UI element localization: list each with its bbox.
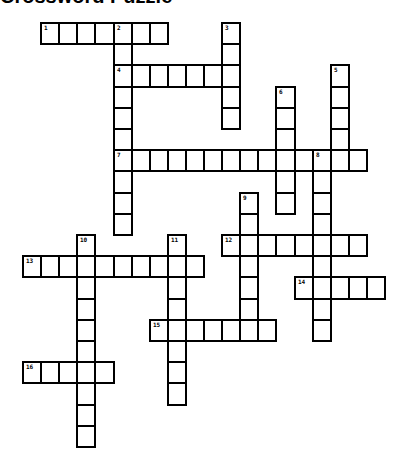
crossword-cell[interactable] <box>185 319 205 342</box>
crossword-cell[interactable] <box>312 319 332 342</box>
crossword-cell[interactable]: 12 <box>221 234 241 257</box>
crossword-cell[interactable] <box>330 234 350 257</box>
crossword-cell[interactable] <box>275 149 296 172</box>
crossword-cell[interactable] <box>131 255 151 278</box>
crossword-cell[interactable] <box>275 170 296 194</box>
crossword-cell[interactable] <box>76 425 96 448</box>
crossword-cell[interactable] <box>294 149 314 172</box>
crossword-cell[interactable] <box>221 86 241 109</box>
crossword-cell[interactable] <box>203 149 223 172</box>
crossword-cell[interactable] <box>58 255 78 278</box>
crossword-cell[interactable] <box>76 276 96 300</box>
crossword-cell[interactable] <box>94 361 115 384</box>
crossword-cell[interactable] <box>76 22 96 45</box>
crossword-cell[interactable] <box>149 64 169 88</box>
crossword-cell[interactable] <box>167 255 187 278</box>
crossword-cell[interactable]: 13 <box>22 255 42 278</box>
crossword-cell[interactable] <box>366 276 386 300</box>
crossword-cell[interactable] <box>131 64 151 88</box>
crossword-cell[interactable] <box>257 234 277 257</box>
crossword-cell[interactable] <box>113 128 133 151</box>
crossword-cell[interactable] <box>113 192 133 215</box>
crossword-cell[interactable] <box>167 361 187 384</box>
crossword-cell[interactable]: 15 <box>149 319 169 342</box>
crossword-cell[interactable] <box>167 276 187 300</box>
crossword-cell[interactable] <box>131 22 151 45</box>
crossword-cell[interactable] <box>113 107 133 130</box>
crossword-cell[interactable]: 2 <box>113 22 133 45</box>
crossword-cell[interactable] <box>76 255 96 278</box>
crossword-cell[interactable] <box>257 149 277 172</box>
crossword-cell[interactable] <box>348 234 368 257</box>
crossword-cell[interactable] <box>40 255 60 278</box>
crossword-cell[interactable]: 8 <box>312 149 332 172</box>
crossword-cell[interactable] <box>294 234 314 257</box>
crossword-cell[interactable]: 7 <box>113 149 133 172</box>
crossword-cell[interactable]: 11 <box>167 234 187 257</box>
crossword-cell[interactable] <box>185 64 205 88</box>
crossword-cell[interactable] <box>239 234 259 257</box>
crossword-cell[interactable] <box>239 213 259 236</box>
crossword-cell[interactable] <box>203 319 223 342</box>
crossword-cell[interactable] <box>113 170 133 194</box>
crossword-cell[interactable] <box>312 170 332 194</box>
crossword-cell[interactable] <box>312 234 332 257</box>
crossword-cell[interactable] <box>257 319 277 342</box>
crossword-cell[interactable] <box>312 192 332 215</box>
crossword-cell[interactable] <box>167 319 187 342</box>
crossword-cell[interactable] <box>221 319 241 342</box>
crossword-cell[interactable] <box>113 255 133 278</box>
crossword-cell[interactable] <box>167 298 187 321</box>
crossword-cell[interactable] <box>185 149 205 172</box>
crossword-cell[interactable] <box>239 255 259 278</box>
crossword-cell[interactable] <box>221 107 241 130</box>
crossword-cell[interactable] <box>275 192 296 215</box>
crossword-cell[interactable]: 9 <box>239 192 259 215</box>
crossword-cell[interactable] <box>40 361 60 384</box>
crossword-cell[interactable] <box>275 128 296 151</box>
crossword-cell[interactable] <box>167 64 187 88</box>
crossword-cell[interactable] <box>221 149 241 172</box>
crossword-cell[interactable] <box>149 149 169 172</box>
crossword-cell[interactable] <box>312 276 332 300</box>
crossword-cell[interactable] <box>167 340 187 363</box>
crossword-cell[interactable] <box>131 149 151 172</box>
crossword-cell[interactable] <box>275 234 296 257</box>
crossword-cell[interactable]: 5 <box>330 64 350 88</box>
crossword-cell[interactable] <box>76 298 96 321</box>
crossword-cell[interactable] <box>330 128 350 151</box>
crossword-cell[interactable]: 6 <box>275 86 296 109</box>
crossword-cell[interactable] <box>149 22 169 45</box>
crossword-cell[interactable] <box>221 43 241 66</box>
crossword-cell[interactable] <box>58 22 78 45</box>
crossword-cell[interactable] <box>149 255 169 278</box>
crossword-cell[interactable] <box>239 298 259 321</box>
crossword-cell[interactable] <box>312 298 332 321</box>
crossword-cell[interactable] <box>94 22 115 45</box>
crossword-cell[interactable]: 14 <box>294 276 314 300</box>
crossword-cell[interactable]: 4 <box>113 64 133 88</box>
crossword-cell[interactable] <box>348 276 368 300</box>
crossword-cell[interactable]: 1 <box>40 22 60 45</box>
crossword-cell[interactable] <box>76 340 96 363</box>
crossword-cell[interactable] <box>76 361 96 384</box>
crossword-cell[interactable] <box>167 382 187 406</box>
crossword-cell[interactable] <box>76 404 96 427</box>
crossword-cell[interactable]: 16 <box>22 361 42 384</box>
crossword-cell[interactable] <box>330 149 350 172</box>
crossword-cell[interactable] <box>113 86 133 109</box>
crossword-cell[interactable] <box>185 255 205 278</box>
crossword-cell[interactable] <box>275 107 296 130</box>
crossword-cell[interactable] <box>113 213 133 236</box>
crossword-cell[interactable] <box>58 361 78 384</box>
crossword-cell[interactable] <box>239 319 259 342</box>
crossword-cell[interactable] <box>330 86 350 109</box>
crossword-cell[interactable] <box>239 149 259 172</box>
crossword-cell[interactable] <box>221 64 241 88</box>
crossword-cell[interactable] <box>330 107 350 130</box>
crossword-cell[interactable] <box>76 382 96 406</box>
crossword-cell[interactable] <box>348 149 368 172</box>
crossword-cell[interactable] <box>203 64 223 88</box>
crossword-cell[interactable] <box>239 276 259 300</box>
crossword-cell[interactable]: 3 <box>221 22 241 45</box>
